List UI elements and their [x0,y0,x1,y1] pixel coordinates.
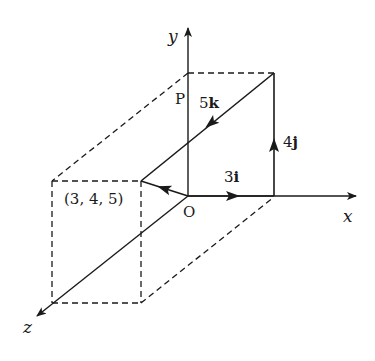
arrowhead-resultant [156,181,172,195]
y-axis-label: y [167,26,178,46]
origin-label: O [183,203,195,221]
vector-diagram: y x z O P (3, 4, 5) 3i 4j 5k [0,0,375,361]
label-3i: 3i [224,168,240,186]
point-label: P [175,90,185,108]
box-edge-bottom-diag [141,197,274,303]
z-axis [37,196,188,316]
z-axis-label: z [22,317,33,337]
x-axis-label: x [343,206,353,226]
point-coords-label: (3, 4, 5) [64,190,123,208]
label-5k: 5k [199,94,220,112]
box-edge-top-diag [52,73,188,181]
label-4j: 4j [283,133,298,151]
